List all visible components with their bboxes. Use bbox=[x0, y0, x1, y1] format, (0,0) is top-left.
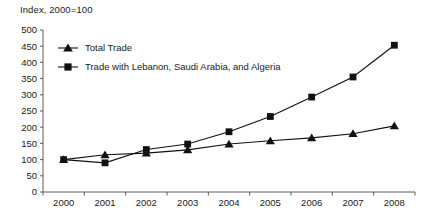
y-tick-label: 200 bbox=[21, 122, 37, 133]
x-tick-label: 2000 bbox=[53, 197, 74, 208]
data-point-marker bbox=[267, 113, 274, 120]
y-tick-label: 300 bbox=[21, 89, 37, 100]
y-tick-label: 350 bbox=[21, 73, 37, 84]
chart-container: Index, 2000=100 050100150200250300350400… bbox=[0, 0, 425, 224]
y-tick-label: 100 bbox=[21, 154, 37, 165]
x-tick-label: 2001 bbox=[94, 197, 115, 208]
x-tick-labels: 200020012002200320042005200620072008 bbox=[53, 197, 405, 208]
y-axis-group: 050100150200250300350400450500 bbox=[21, 24, 43, 197]
chart-legend: Total TradeTrade with Lebanon, Saudi Ara… bbox=[58, 42, 281, 72]
legend-label: Trade with Lebanon, Saudi Arabia, and Al… bbox=[85, 61, 281, 72]
x-tick-label: 2008 bbox=[384, 197, 405, 208]
legend-item-1[interactable]: Total Trade bbox=[58, 42, 132, 53]
legend-label: Total Trade bbox=[85, 42, 132, 53]
x-tick-marks bbox=[43, 192, 415, 196]
legend-item-2[interactable]: Trade with Lebanon, Saudi Arabia, and Al… bbox=[58, 61, 281, 72]
data-point-marker bbox=[390, 122, 399, 130]
y-tick-label: 450 bbox=[21, 41, 37, 52]
y-tick-labels: 050100150200250300350400450500 bbox=[21, 24, 37, 197]
x-tick-label: 2006 bbox=[301, 197, 322, 208]
x-tick-label: 2003 bbox=[177, 197, 198, 208]
chart-svg: 050100150200250300350400450500 200020012… bbox=[0, 0, 425, 224]
plot-area: 050100150200250300350400450500 200020012… bbox=[0, 0, 425, 224]
data-point-marker bbox=[102, 159, 109, 166]
x-axis-group: 200020012002200320042005200620072008 bbox=[43, 192, 415, 208]
y-tick-label: 50 bbox=[26, 170, 37, 181]
x-tick-label: 2002 bbox=[136, 197, 157, 208]
y-tick-label: 400 bbox=[21, 57, 37, 68]
x-tick-label: 2007 bbox=[342, 197, 363, 208]
x-tick-label: 2004 bbox=[218, 197, 239, 208]
data-point-marker bbox=[226, 128, 233, 135]
data-point-marker bbox=[350, 74, 357, 81]
y-tick-label: 500 bbox=[21, 24, 37, 35]
x-tick-label: 2005 bbox=[260, 197, 281, 208]
data-point-marker bbox=[184, 141, 191, 148]
data-point-marker bbox=[308, 94, 315, 101]
data-point-marker bbox=[391, 42, 398, 49]
data-point-marker bbox=[143, 146, 150, 153]
y-tick-label: 150 bbox=[21, 138, 37, 149]
data-point-marker bbox=[60, 156, 67, 163]
y-tick-label: 0 bbox=[32, 186, 37, 197]
legend-marker-square-icon bbox=[64, 63, 71, 70]
series-1 bbox=[59, 122, 399, 163]
y-tick-label: 250 bbox=[21, 105, 37, 116]
